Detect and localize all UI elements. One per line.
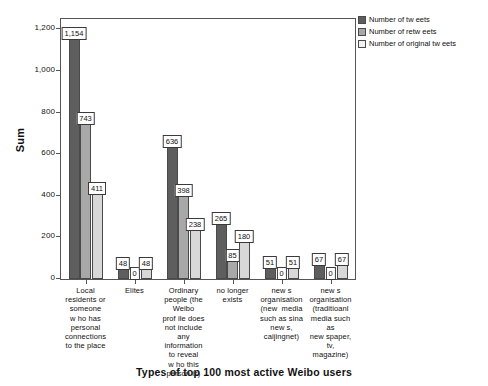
bar-value-label: 743 xyxy=(76,112,95,125)
bar-value-label: 411 xyxy=(88,182,106,195)
x-axis-tick-mark xyxy=(331,280,332,284)
legend-item[interactable]: Number of original tw eets xyxy=(358,38,486,49)
bar xyxy=(227,261,238,279)
bar xyxy=(178,196,189,279)
legend-label: Number of retw eets xyxy=(369,27,437,36)
chart-legend: Number of tw eetsNumber of retw eetsNumb… xyxy=(358,14,486,50)
bar xyxy=(337,265,348,279)
bar-value-label: 67 xyxy=(312,253,326,266)
bar-value-label: 238 xyxy=(186,218,205,231)
bar-value-label: 1,154 xyxy=(62,27,87,40)
bar xyxy=(92,194,103,279)
y-axis-ticks: 02004006008001,0001,200 xyxy=(0,18,60,280)
y-axis-tick-label: 1,200 xyxy=(34,23,55,32)
bar xyxy=(80,124,91,279)
x-axis-tick-mark xyxy=(233,280,234,284)
bar-group: 51051 xyxy=(265,19,299,279)
bar-value-label: 0 xyxy=(325,267,335,280)
bar-group: 67067 xyxy=(314,19,348,279)
bar xyxy=(314,265,325,279)
chart-title: Types of top 100 most active Weibo users xyxy=(0,366,488,378)
bar-group: 1,154743411 xyxy=(69,19,103,279)
legend-item[interactable]: Number of tw eets xyxy=(358,14,486,25)
bar-value-label: 67 xyxy=(335,253,349,266)
bar-value-label: 398 xyxy=(174,184,193,197)
legend-swatch xyxy=(358,28,366,36)
legend-label: Number of tw eets xyxy=(369,15,430,24)
y-axis-tick-label: 800 xyxy=(41,107,55,116)
bar-value-label: 180 xyxy=(235,230,254,243)
bar-value-label: 48 xyxy=(116,257,130,270)
bar xyxy=(141,269,152,279)
bar xyxy=(69,39,80,279)
bar-group: 26585180 xyxy=(216,19,250,279)
x-axis-tick-mark xyxy=(184,280,185,284)
x-axis-category-labels: Localresidents orsomeonew ho haspersonal… xyxy=(40,286,460,364)
x-axis-tick-mark xyxy=(282,280,283,284)
y-axis-tick-label: 400 xyxy=(41,190,55,199)
legend-item[interactable]: Number of retw eets xyxy=(358,26,486,37)
y-axis-tick-label: 0 xyxy=(50,273,55,282)
x-axis-category-label: Localresidents orsomeonew ho haspersonal… xyxy=(53,286,119,350)
bars-layer: 1,15474341148048636398238265851805105167… xyxy=(61,19,355,279)
bar-value-label: 51 xyxy=(263,256,277,269)
y-axis-tick-label: 200 xyxy=(41,231,55,240)
legend-swatch xyxy=(358,40,366,48)
bar xyxy=(190,230,201,280)
bar xyxy=(288,268,299,279)
bar xyxy=(265,268,276,279)
bar-value-label: 48 xyxy=(139,257,153,270)
legend-swatch xyxy=(358,16,366,24)
y-axis-tick-label: 600 xyxy=(41,148,55,157)
bar-group: 48048 xyxy=(118,19,152,279)
x-axis-category-label: new sorganisation(traditioanlmedia sucha… xyxy=(298,286,364,360)
x-axis-tick-mark xyxy=(86,280,87,284)
y-axis-tick-label: 1,000 xyxy=(34,65,55,74)
bar-group: 636398238 xyxy=(167,19,201,279)
bar-value-label: 265 xyxy=(212,212,231,225)
bar xyxy=(239,242,250,279)
x-axis-tick-mark xyxy=(135,280,136,284)
bar xyxy=(118,269,129,279)
bar xyxy=(167,147,178,279)
legend-label: Number of original tw eets xyxy=(369,39,456,48)
bar-chart: Sum 02004006008001,0001,200 1,1547434114… xyxy=(0,0,488,386)
bar-value-label: 636 xyxy=(163,135,182,148)
bar-value-label: 51 xyxy=(286,256,300,269)
